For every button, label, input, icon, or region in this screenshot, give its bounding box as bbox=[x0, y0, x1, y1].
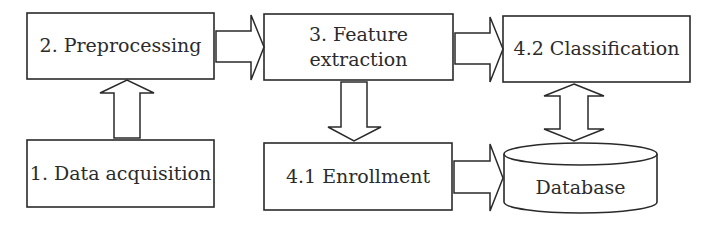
node-database: Database bbox=[504, 143, 657, 213]
arrow-bidirectional-classification-database bbox=[544, 84, 604, 141]
data-acquisition-label: 1. Data acquisition bbox=[30, 162, 211, 184]
arrow-up-acquisition-to-preprocessing bbox=[100, 80, 154, 138]
arrow-right-enrollment-to-database bbox=[454, 144, 503, 211]
flowchart: 2. Preprocessing 3. Feature extraction 4… bbox=[0, 0, 717, 230]
database-top bbox=[504, 143, 657, 165]
preprocessing-label: 2. Preprocessing bbox=[40, 34, 202, 56]
node-data-acquisition: 1. Data acquisition bbox=[27, 140, 214, 207]
feature-extraction-label-line1: 3. Feature bbox=[309, 23, 408, 45]
arrow-down-feature-to-enrollment bbox=[328, 82, 381, 141]
node-enrollment: 4.1 Enrollment bbox=[264, 143, 452, 210]
feature-extraction-label-line2: extraction bbox=[309, 48, 407, 70]
node-feature-extraction: 3. Feature extraction bbox=[264, 14, 453, 80]
arrow-right-feature-to-classification bbox=[455, 17, 503, 82]
arrow-right-preprocessing-to-feature bbox=[216, 15, 264, 80]
node-classification: 4.2 Classification bbox=[503, 16, 690, 82]
node-preprocessing: 2. Preprocessing bbox=[27, 13, 214, 79]
database-label: Database bbox=[535, 176, 625, 198]
classification-label: 4.2 Classification bbox=[514, 37, 680, 59]
enrollment-label: 4.1 Enrollment bbox=[286, 165, 431, 187]
